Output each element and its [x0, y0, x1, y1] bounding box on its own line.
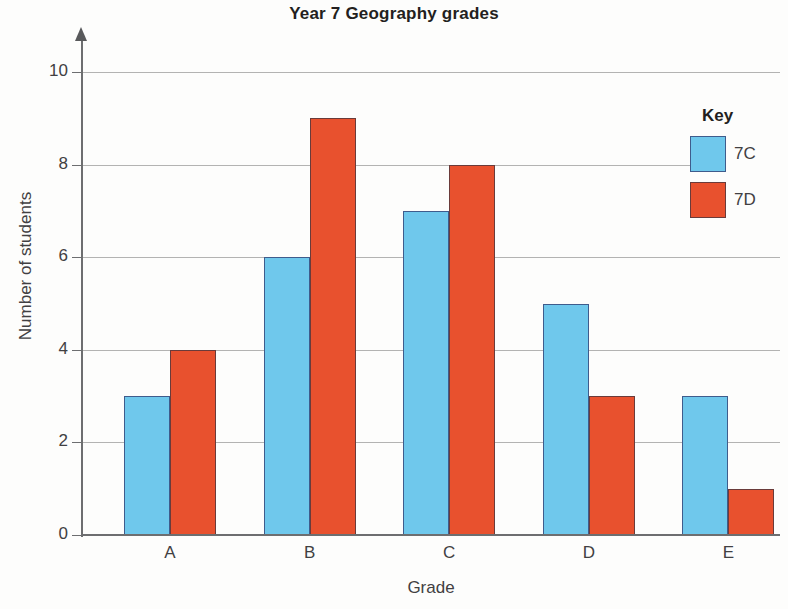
- y-axis-tick-label: 0: [26, 524, 68, 544]
- legend-label: 7C: [734, 144, 756, 164]
- y-axis-tick: [72, 350, 82, 351]
- legend: Key 7C7D: [690, 106, 788, 228]
- y-axis-tick: [72, 257, 82, 258]
- legend-item-7C: 7C: [690, 136, 788, 172]
- x-axis-category-label: D: [559, 543, 619, 563]
- legend-title: Key: [702, 106, 788, 126]
- x-axis-category-labels: ABCDE: [82, 0, 780, 609]
- y-axis-tick-label: 2: [26, 431, 68, 451]
- y-axis-tick: [72, 535, 82, 536]
- chart-page: Year 7 Geography grades 0246810 ABCDE Nu…: [0, 0, 788, 609]
- y-axis-tick: [72, 442, 82, 443]
- legend-swatch-7D: [690, 182, 726, 218]
- y-axis-tick-label: 10: [26, 61, 68, 81]
- x-axis-category-label: A: [140, 543, 200, 563]
- legend-label: 7D: [734, 190, 756, 210]
- legend-item-7D: 7D: [690, 182, 788, 218]
- y-axis-tick: [72, 165, 82, 166]
- x-axis-category-label: C: [419, 543, 479, 563]
- legend-entries: 7C7D: [690, 136, 788, 218]
- y-axis-title: Number of students: [16, 156, 36, 376]
- x-axis-category-label: B: [280, 543, 340, 563]
- y-axis-tick: [72, 72, 82, 73]
- x-axis-title: Grade: [82, 578, 780, 598]
- legend-swatch-7C: [690, 136, 726, 172]
- x-axis-category-label: E: [698, 543, 758, 563]
